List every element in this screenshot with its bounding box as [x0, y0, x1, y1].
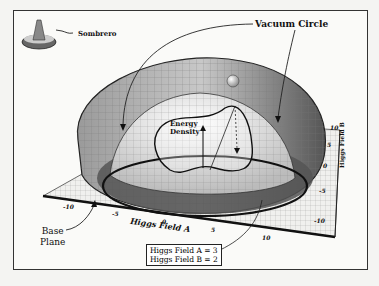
axis-a-tick: 10 — [262, 234, 270, 241]
sombrero-label: Sombrero — [78, 29, 117, 38]
axis-b-tick: 10 — [330, 124, 338, 131]
sombrero-icon — [22, 20, 56, 49]
axis-a-tick: 0 — [162, 218, 166, 225]
vacuum-circle-label: Vacuum Circle — [255, 19, 328, 29]
axis-b-tick: 5 — [327, 141, 331, 148]
axis-a-tick: -10 — [63, 203, 74, 210]
sombrero-surface — [77, 58, 325, 216]
axis-b-tick: 0 — [323, 162, 327, 169]
axis-a-tick: -5 — [112, 210, 119, 217]
field-a-value: Higgs Field A = 3 — [150, 246, 218, 255]
axis-b-tick: -5 — [319, 187, 326, 194]
field-b-value: Higgs Field B = 2 — [150, 255, 218, 264]
higgs-ball-icon — [227, 75, 239, 87]
base-plane-label: Base Plane — [40, 226, 65, 248]
field-values-box: Higgs Field A = 3 Higgs Field B = 2 — [146, 244, 222, 266]
axis-b-label: Higgs Field B — [338, 122, 345, 168]
energy-density-label: Energy Density — [170, 120, 200, 136]
axis-b-tick: -10 — [314, 217, 325, 224]
axis-a-tick: 5 — [211, 226, 215, 233]
